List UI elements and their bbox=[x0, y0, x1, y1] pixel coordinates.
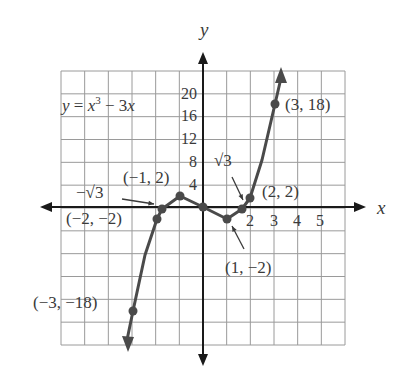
point-label-2-2: (2, 2) bbox=[262, 183, 299, 200]
function-label-rest: − 3 bbox=[101, 96, 128, 115]
point-label-neg-sqrt3: −√3 bbox=[76, 184, 103, 201]
x-axis-label: x bbox=[377, 198, 385, 217]
point-label-sqrt3: √3 bbox=[214, 152, 232, 169]
point-label-neg2-neg2: (−2, −2) bbox=[66, 210, 122, 227]
x-tick-3: 3 bbox=[270, 213, 278, 229]
x-tick-5: 5 bbox=[316, 213, 324, 229]
x-tick-4: 4 bbox=[293, 213, 301, 229]
function-label: y = x3 − 3x bbox=[62, 95, 135, 114]
cubic-function-graph bbox=[0, 0, 405, 377]
y-tick-12: 12 bbox=[181, 131, 197, 147]
point-label-3-18: (3, 18) bbox=[285, 96, 330, 113]
function-label-y: y bbox=[62, 96, 70, 115]
point-label-neg3-neg18: (−3, −18) bbox=[33, 294, 98, 311]
function-label-x2: x bbox=[127, 96, 135, 115]
x-tick-2: 2 bbox=[246, 213, 254, 229]
y-axis-label: y bbox=[200, 20, 208, 39]
point-label-1-neg2: (1, −2) bbox=[225, 259, 271, 276]
curve bbox=[122, 67, 287, 352]
function-label-eq: = bbox=[70, 96, 88, 115]
y-tick-16: 16 bbox=[181, 108, 197, 124]
y-tick-4: 4 bbox=[189, 177, 197, 193]
point-label-neg1-2: (−1, 2) bbox=[123, 169, 169, 186]
y-tick-8: 8 bbox=[189, 154, 197, 170]
y-tick-20: 20 bbox=[181, 86, 197, 102]
